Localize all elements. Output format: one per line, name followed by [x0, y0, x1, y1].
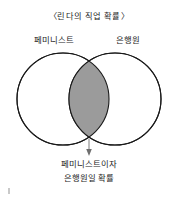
venn-circles-graphic	[0, 0, 178, 199]
intersection-caption-line-1: 페미니스트이자	[0, 160, 178, 168]
annotation-arrow-head	[86, 149, 92, 156]
venn-diagram-figure: 〈린다의 직업 확률〉 페미니스트 은행원 페미니스트이자 은행원일 확률	[0, 0, 178, 199]
page-corner-mark	[8, 188, 10, 194]
intersection-caption-line-2: 은행원일 확률	[0, 174, 178, 182]
